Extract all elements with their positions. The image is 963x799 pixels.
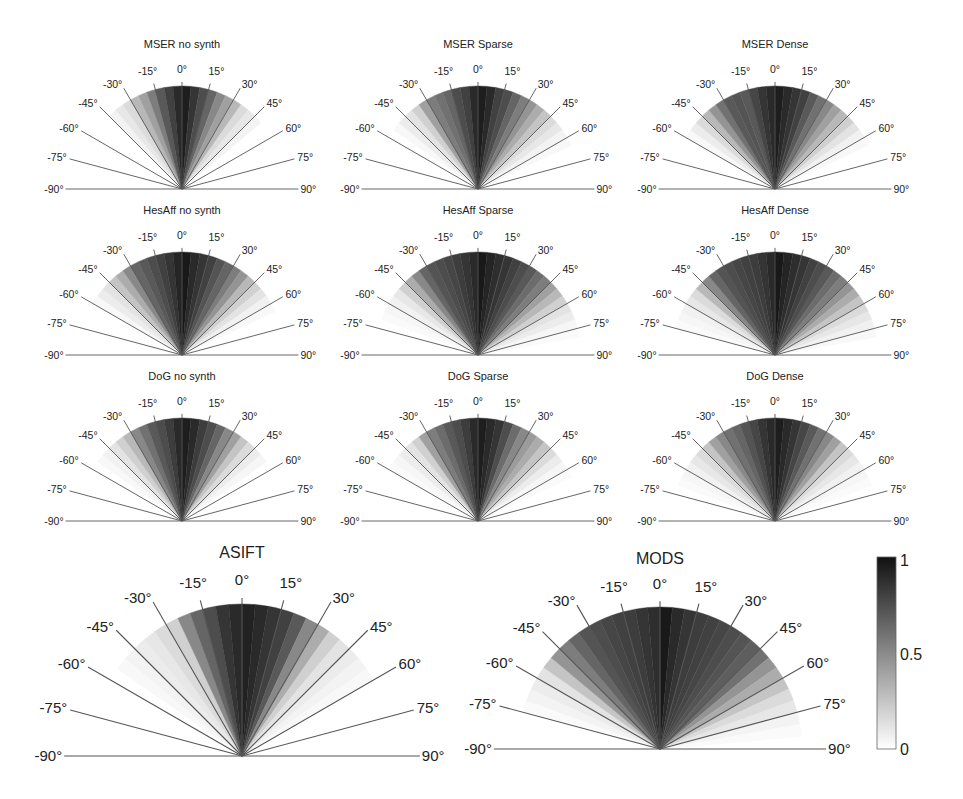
angle-tick-label: 90°: [828, 740, 851, 757]
angle-tick-label: -75°: [343, 151, 362, 163]
angle-tick-label: -45°: [374, 263, 393, 275]
angle-tick-label: 60°: [878, 454, 894, 466]
angle-tick-label: 30°: [835, 244, 851, 256]
angle-tick-label: 45°: [370, 618, 393, 635]
angle-tick-label: -30°: [696, 244, 715, 256]
angle-tick-label: 15°: [695, 578, 718, 595]
angle-tick-label: -75°: [343, 317, 362, 329]
plot-title: HesAff no synth: [143, 204, 220, 216]
polar-plot-mser-no-synth: -90°-75°-60°-45°-30°-15°0°15°30°45°60°75…: [44, 38, 316, 195]
angle-tick-label: -60°: [652, 454, 671, 466]
angle-tick-label: 90°: [893, 349, 909, 361]
angle-tick-label: 15°: [504, 65, 520, 77]
plot-title: HesAff Sparse: [443, 204, 514, 216]
plot-title: HesAff Dense: [741, 204, 809, 216]
angle-tick-label: 15°: [504, 397, 520, 409]
angle-tick-label: -45°: [78, 429, 97, 441]
angle-tick-label: 45°: [266, 429, 282, 441]
angle-tick-label: 60°: [878, 288, 894, 300]
angle-tick-label: -90°: [44, 515, 63, 527]
angle-tick-label: 0°: [770, 229, 780, 241]
angle-tick-label: -30°: [399, 410, 418, 422]
angle-tick-label: -90°: [340, 183, 359, 195]
angle-tick-label: -60°: [59, 122, 78, 134]
angle-tick-label: -90°: [44, 349, 63, 361]
angle-tick-label: 0°: [770, 395, 780, 407]
angle-tick-label: -90°: [340, 515, 359, 527]
angle-tick-label: -45°: [671, 429, 690, 441]
angle-tick-label: 0°: [473, 229, 483, 241]
angle-tick-label: 45°: [562, 429, 578, 441]
angle-tick-label: -45°: [513, 619, 541, 636]
angle-tick-label: -90°: [637, 515, 656, 527]
angle-tick-label: 0°: [177, 229, 187, 241]
angle-tick-label: 75°: [593, 151, 609, 163]
angle-tick-label: 30°: [745, 592, 768, 609]
angle-tick-label: -30°: [103, 78, 122, 90]
angle-tick-label: 0°: [473, 63, 483, 75]
angle-tick-label: -30°: [399, 78, 418, 90]
angle-tick-label: 45°: [266, 97, 282, 109]
angle-tick-label: 15°: [208, 231, 224, 243]
angle-tick-label: 45°: [859, 263, 875, 275]
angle-tick-label: -30°: [103, 244, 122, 256]
angle-tick-label: 75°: [297, 317, 313, 329]
angle-tick-label: 0°: [177, 395, 187, 407]
angle-tick-label: -90°: [637, 349, 656, 361]
polar-plot-hesaff-no-synth: -90°-75°-60°-45°-30°-15°0°15°30°45°60°75…: [44, 204, 316, 361]
angle-tick-label: -75°: [343, 483, 362, 495]
angle-tick-label: 90°: [596, 349, 612, 361]
angle-tick-label: -90°: [340, 349, 359, 361]
angle-tick-label: -15°: [731, 397, 750, 409]
angle-tick-label: -90°: [35, 747, 63, 764]
polar-plot-dog-sparse: -90°-75°-60°-45°-30°-15°0°15°30°45°60°75…: [340, 370, 612, 527]
plot-title: ASIFT: [219, 544, 265, 561]
angle-tick-label: 60°: [878, 122, 894, 134]
angle-tick-label: 30°: [835, 78, 851, 90]
angle-tick-label: 60°: [581, 454, 597, 466]
angle-tick-label: 45°: [859, 97, 875, 109]
angle-tick-label: -90°: [44, 183, 63, 195]
angle-tick-label: 45°: [562, 97, 578, 109]
angle-tick-label: -15°: [600, 578, 628, 595]
angle-tick-label: 0°: [653, 575, 667, 592]
angle-tick-label: 15°: [279, 574, 302, 591]
colorbar: 1 0.5 0: [877, 552, 922, 758]
polar-plot-mser-sparse: -90°-75°-60°-45°-30°-15°0°15°30°45°60°75…: [340, 38, 612, 195]
angle-tick-label: -45°: [78, 97, 97, 109]
angle-tick-label: 60°: [285, 454, 301, 466]
angle-tick-label: 30°: [538, 244, 554, 256]
angle-tick-label: 75°: [593, 317, 609, 329]
angle-tick-label: -45°: [374, 97, 393, 109]
angle-tick-label: -90°: [464, 740, 492, 757]
angle-tick-label: -75°: [640, 151, 659, 163]
angle-tick-label: -15°: [731, 231, 750, 243]
angle-tick-label: 45°: [562, 263, 578, 275]
angle-tick-label: -60°: [652, 122, 671, 134]
angle-tick-label: -15°: [138, 65, 157, 77]
angle-tick-label: 15°: [208, 65, 224, 77]
angle-tick-label: 45°: [780, 619, 803, 636]
angle-tick-label: -15°: [138, 397, 157, 409]
angle-tick-label: 75°: [297, 151, 313, 163]
polar-plot-dog-dense: -90°-75°-60°-45°-30°-15°0°15°30°45°60°75…: [637, 370, 909, 527]
angle-tick-label: 60°: [399, 655, 422, 672]
plots-container: -90°-75°-60°-45°-30°-15°0°15°30°45°60°75…: [35, 38, 910, 764]
angle-tick-label: -45°: [374, 429, 393, 441]
angle-tick-label: 30°: [538, 410, 554, 422]
colorbar-tick-mid: 0.5: [900, 646, 922, 663]
polar-plot-dog-no-synth: -90°-75°-60°-45°-30°-15°0°15°30°45°60°75…: [44, 370, 316, 527]
angle-tick-label: 30°: [242, 410, 258, 422]
angle-tick-label: 30°: [242, 78, 258, 90]
angle-tick-label: 90°: [300, 515, 316, 527]
angle-tick-label: 60°: [807, 654, 830, 671]
angle-tick-label: 90°: [893, 515, 909, 527]
plot-title: DoG Sparse: [448, 370, 509, 382]
angle-tick-label: 0°: [177, 63, 187, 75]
angle-tick-label: -60°: [355, 122, 374, 134]
angle-tick-label: -30°: [696, 410, 715, 422]
angle-tick-label: -75°: [40, 699, 68, 716]
polar-plot-mods: -90°-75°-60°-45°-30°-15°0°15°30°45°60°75…: [464, 550, 851, 757]
angle-tick-label: -15°: [434, 231, 453, 243]
angle-tick-label: 60°: [581, 122, 597, 134]
